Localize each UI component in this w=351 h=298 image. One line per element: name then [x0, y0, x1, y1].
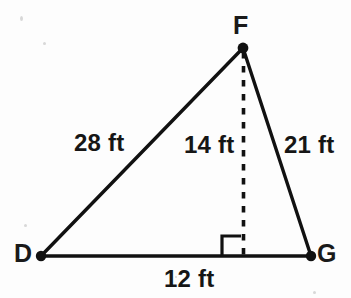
vertex-label-D: D	[14, 241, 32, 266]
geometry-diagram: D F G 28 ft 14 ft 21 ft 12 ft	[0, 0, 351, 298]
vertex-label-G: G	[317, 241, 336, 266]
vertex-dot-G	[306, 251, 316, 261]
vertex-dot-F	[238, 43, 249, 54]
vertex-dot-D	[36, 251, 46, 261]
side-length-label-altitude: 14 ft	[184, 133, 234, 157]
side-length-label-DG: 12 ft	[164, 267, 214, 291]
side-length-label-DF: 28 ft	[74, 131, 124, 155]
right-angle-marker	[222, 236, 241, 255]
vertex-label-F: F	[233, 13, 248, 38]
side-length-label-FG: 21 ft	[284, 133, 334, 157]
